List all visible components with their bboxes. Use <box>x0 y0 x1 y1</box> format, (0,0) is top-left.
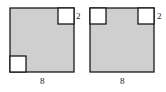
bottom-label: 8 <box>40 76 45 86</box>
bottom-label: 8 <box>120 76 125 86</box>
side-label: 2 <box>76 11 81 21</box>
side-label: 2 <box>157 11 162 21</box>
cutout-bottom-left <box>10 56 26 72</box>
figure-left: 2 8 <box>10 8 81 86</box>
cutout-top-right <box>138 8 154 24</box>
figure-right: 2 8 <box>90 8 162 86</box>
diagram-canvas: 2 8 2 8 <box>0 0 166 92</box>
cutout-top-left <box>90 8 106 24</box>
cutout-top-right <box>58 8 74 24</box>
